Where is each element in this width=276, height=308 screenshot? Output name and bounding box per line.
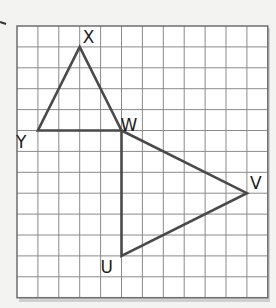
- vertex-label-v: V: [250, 173, 262, 193]
- grid-diagram: XYWVU: [0, 0, 276, 308]
- grid: [17, 26, 268, 298]
- vertex-label-y: Y: [15, 132, 27, 152]
- vertex-label-x: X: [83, 27, 95, 47]
- vertex-label-w: W: [121, 115, 138, 135]
- corner-mark: [0, 22, 6, 24]
- vertex-label-u: U: [101, 257, 113, 277]
